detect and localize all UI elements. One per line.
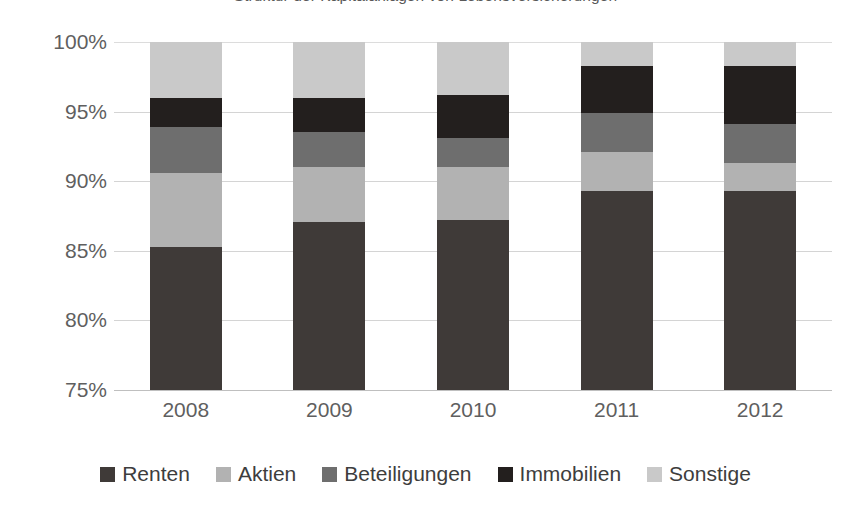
bar-2012 xyxy=(724,42,796,390)
bar-segment-2012-beteiligungen xyxy=(724,124,796,163)
legend-label: Beteiligungen xyxy=(344,462,471,486)
bar-segment-2010-aktien xyxy=(437,167,509,220)
bar-2009 xyxy=(293,42,365,390)
legend-item-beteiligungen[interactable]: Beteiligungen xyxy=(322,462,471,486)
gridline-75 xyxy=(114,390,832,391)
bar-segment-2008-sonstige xyxy=(150,42,222,98)
y-axis-tick-80: 80% xyxy=(15,308,107,332)
legend-label: Aktien xyxy=(238,462,296,486)
bar-segment-2010-immobilien xyxy=(437,95,509,138)
x-axis-tick-2011: 2011 xyxy=(557,398,677,422)
x-axis-tick-2010: 2010 xyxy=(413,398,533,422)
bar-2011 xyxy=(581,42,653,390)
bar-segment-2009-aktien xyxy=(293,167,365,221)
bar-segment-2011-sonstige xyxy=(581,42,653,66)
legend-item-aktien[interactable]: Aktien xyxy=(216,462,296,486)
y-axis-tick-75: 75% xyxy=(15,378,107,402)
chart-container: Struktur der Kapitalanlagen von Lebensve… xyxy=(0,0,851,529)
bar-2008 xyxy=(150,42,222,390)
bar-segment-2009-renten xyxy=(293,222,365,390)
bar-segment-2011-beteiligungen xyxy=(581,113,653,152)
x-axis-tick-2012: 2012 xyxy=(700,398,820,422)
bar-segment-2012-renten xyxy=(724,191,796,390)
x-axis-tick-2008: 2008 xyxy=(126,398,246,422)
bar-segment-2008-aktien xyxy=(150,173,222,247)
bar-segment-2009-immobilien xyxy=(293,98,365,133)
bar-segment-2008-beteiligungen xyxy=(150,127,222,173)
legend-label: Renten xyxy=(122,462,190,486)
bar-segment-2010-sonstige xyxy=(437,42,509,95)
y-axis-tick-95: 95% xyxy=(15,100,107,124)
square-swatch-icon xyxy=(100,467,115,482)
bar-2010 xyxy=(437,42,509,390)
bar-segment-2008-immobilien xyxy=(150,98,222,127)
x-axis-tick-2009: 2009 xyxy=(269,398,389,422)
bar-segment-2010-beteiligungen xyxy=(437,138,509,167)
bar-segment-2012-immobilien xyxy=(724,66,796,124)
bar-segment-2011-immobilien xyxy=(581,66,653,113)
legend-item-sonstige[interactable]: Sonstige xyxy=(647,462,751,486)
y-axis-tick-100: 100% xyxy=(15,30,107,54)
bar-segment-2008-renten xyxy=(150,247,222,390)
bar-segment-2011-aktien xyxy=(581,152,653,191)
chart-legend: RentenAktienBeteiligungenImmobilienSonst… xyxy=(0,462,851,486)
bar-segment-2012-aktien xyxy=(724,163,796,191)
bar-segment-2009-beteiligungen xyxy=(293,132,365,167)
y-axis-tick-85: 85% xyxy=(15,239,107,263)
legend-item-immobilien[interactable]: Immobilien xyxy=(498,462,622,486)
plot-area xyxy=(114,42,832,390)
square-swatch-icon xyxy=(322,467,337,482)
square-swatch-icon xyxy=(647,467,662,482)
square-swatch-icon xyxy=(216,467,231,482)
legend-label: Immobilien xyxy=(520,462,622,486)
legend-item-renten[interactable]: Renten xyxy=(100,462,190,486)
bar-segment-2012-sonstige xyxy=(724,42,796,66)
bar-segment-2010-renten xyxy=(437,220,509,390)
legend-label: Sonstige xyxy=(669,462,751,486)
chart-title: Struktur der Kapitalanlagen von Lebensve… xyxy=(0,0,851,5)
bar-segment-2009-sonstige xyxy=(293,42,365,98)
y-axis-tick-90: 90% xyxy=(15,169,107,193)
square-swatch-icon xyxy=(498,467,513,482)
bar-segment-2011-renten xyxy=(581,191,653,390)
